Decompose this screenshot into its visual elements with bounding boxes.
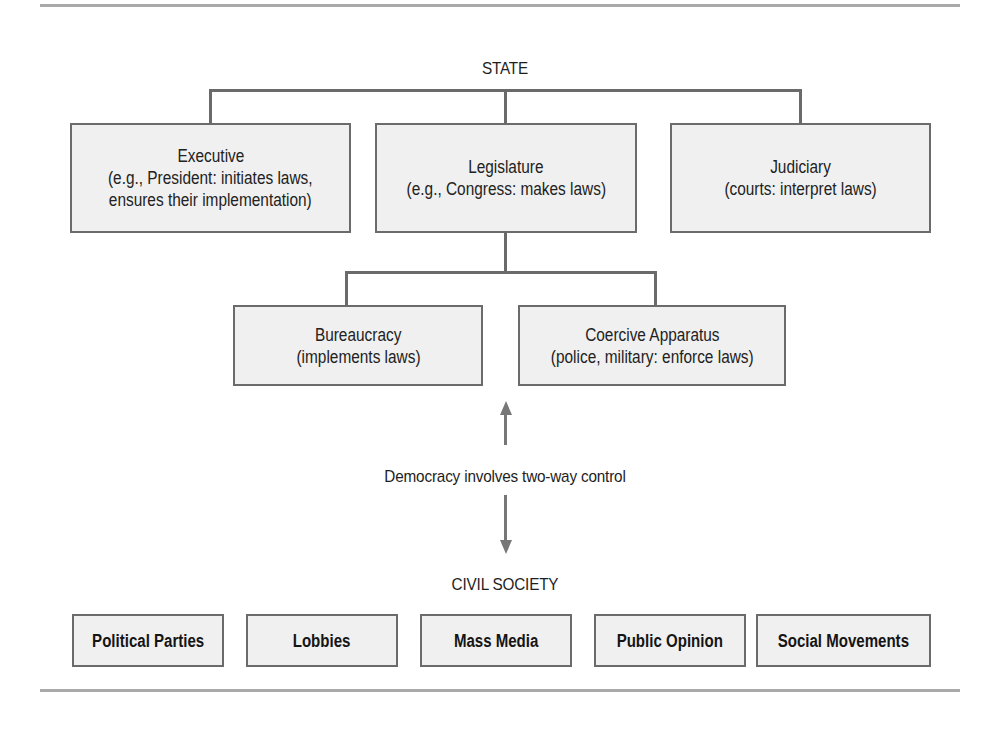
lobbies-box: Lobbies (246, 614, 398, 667)
bureaucracy-connector (345, 271, 348, 306)
state-connector-judiciary (799, 89, 802, 124)
coercive-apparatus-desc: (police, military: enforce laws) (551, 346, 754, 368)
executive-name: Executive (177, 145, 244, 167)
mass-media-label: Mass Media (454, 630, 538, 652)
bureaucracy-name: Bureaucracy (315, 324, 401, 346)
state-connector-legislature (504, 89, 507, 124)
two-way-control-label: Democracy involves two-way control (348, 467, 663, 487)
state-connector-executive (209, 89, 212, 124)
top-rule (40, 4, 960, 7)
legislature-box: Legislature (e.g., Congress: makes laws) (375, 123, 637, 233)
social-movements-box: Social Movements (756, 614, 931, 667)
mass-media-box: Mass Media (420, 614, 572, 667)
legislature-children-horizontal (345, 271, 657, 274)
state-title: STATE (460, 59, 550, 79)
bureaucracy-box: Bureaucracy (implements laws) (233, 305, 483, 386)
judiciary-name: Judiciary (770, 156, 831, 178)
bottom-rule (40, 689, 960, 692)
public-opinion-box: Public Opinion (594, 614, 746, 667)
social-movements-label: Social Movements (778, 630, 909, 652)
coercive-apparatus-name: Coercive Apparatus (585, 324, 719, 346)
judiciary-desc: (courts: interpret laws) (724, 178, 876, 200)
coercive-apparatus-box: Coercive Apparatus (police, military: en… (518, 305, 786, 386)
legislature-desc: (e.g., Congress: makes laws) (406, 178, 605, 200)
executive-box: Executive (e.g., President: initiates la… (70, 123, 351, 233)
legislature-name: Legislature (468, 156, 543, 178)
political-parties-label: Political Parties (92, 630, 204, 652)
public-opinion-label: Public Opinion (617, 630, 723, 652)
judiciary-box: Judiciary (courts: interpret laws) (670, 123, 931, 233)
political-parties-box: Political Parties (72, 614, 224, 667)
executive-desc-2: ensures their implementation) (109, 189, 312, 211)
lobbies-label: Lobbies (293, 630, 351, 652)
civil-society-title: CIVIL SOCIETY (429, 575, 582, 595)
legislature-down-connector (504, 232, 507, 273)
bureaucracy-desc: (implements laws) (296, 346, 420, 368)
executive-desc-1: (e.g., President: initiates laws, (108, 167, 313, 189)
coercive-connector (654, 271, 657, 306)
